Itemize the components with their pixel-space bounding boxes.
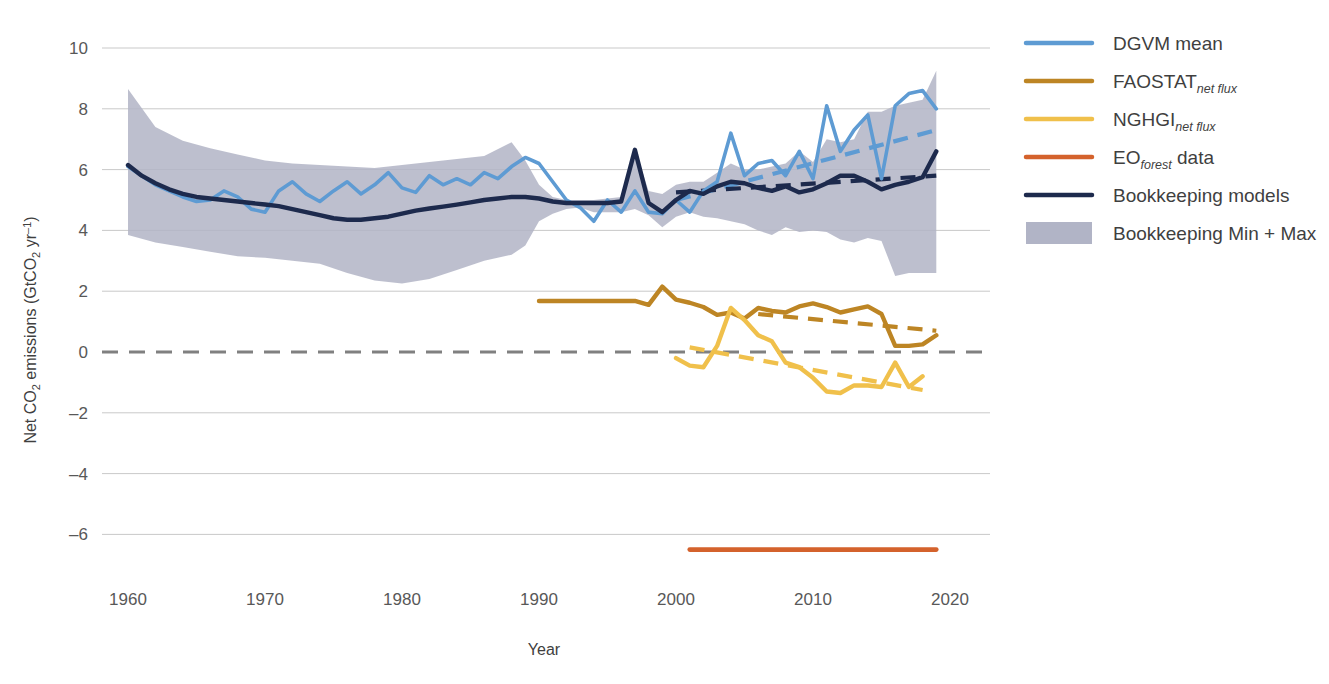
y-axis-tick-labels: 1086420–2–4–6 [69,39,88,544]
y-axis-title: Net CO2 emissions (GtCO2 yr–1) [21,216,42,443]
legend-label-main: Bookkeeping models [1113,185,1289,206]
y-tick-label: –4 [69,465,88,484]
x-axis-tick-labels: 1960197019801990200020102020 [109,590,969,609]
x-tick-label: 2010 [794,590,832,609]
legend-label-subscript: net flux [1175,120,1216,134]
y-tick-label: 10 [69,39,88,58]
x-tick-label: 2020 [931,590,969,609]
legend-label: DGVM mean [1113,33,1223,54]
legend-label: EOforest data [1113,147,1214,172]
x-tick-label: 1990 [520,590,558,609]
legend-item[interactable]: DGVM mean [1026,33,1223,54]
legend-label-main: EO [1113,147,1140,168]
x-axis-title: Year [528,641,561,658]
y-title-part: ) [22,216,39,221]
legend-swatch-patch [1026,222,1092,244]
chart-svg: 1960197019801990200020102020 1086420–2–4… [0,0,1329,684]
legend-label: NGHGInet flux [1113,109,1216,134]
y-tick-label: 4 [79,221,88,240]
axis-titles-group: Year Net CO2 emissions (GtCO2 yr–1) [21,216,561,658]
legend-item[interactable]: Bookkeeping models [1026,185,1289,206]
legend-label-subscript: net flux [1197,82,1238,96]
trend-line-faostat-trend [758,314,936,331]
y-tick-label: 2 [79,282,88,301]
y-tick-label: 6 [79,161,88,180]
y-title-part: –1 [21,222,33,234]
x-tick-label: 1980 [383,590,421,609]
x-tick-label: 2000 [657,590,695,609]
legend-label: Bookkeeping Min + Max [1113,223,1317,244]
legend-label-main: NGHGI [1113,109,1175,130]
legend-label: FAOSTATnet flux [1113,71,1238,96]
y-tick-label: 0 [79,343,88,362]
gridlines-group [102,48,990,534]
trend-line-nghgi-trend [690,347,923,390]
legend: DGVM meanFAOSTATnet fluxNGHGInet fluxEOf… [1026,33,1317,244]
y-tick-label: –2 [69,404,88,423]
x-tick-label: 1970 [246,590,284,609]
legend-item[interactable]: EOforest data [1026,147,1214,172]
legend-item[interactable]: Bookkeeping Min + Max [1026,222,1317,244]
y-title-part: emissions (GtCO [22,258,39,384]
y-title-part: yr [22,233,39,251]
legend-label-suffix: data [1172,147,1215,168]
legend-label-subscript: forest [1140,158,1172,172]
legend-item[interactable]: FAOSTATnet flux [1026,71,1238,96]
legend-label: Bookkeeping models [1113,185,1289,206]
legend-item[interactable]: NGHGInet flux [1026,109,1216,134]
x-tick-label: 1960 [109,590,147,609]
chart-figure: 1960197019801990200020102020 1086420–2–4… [0,0,1329,684]
legend-label-main: Bookkeeping Min + Max [1113,223,1317,244]
y-title-part: Net CO [22,390,39,443]
y-tick-label: 8 [79,100,88,119]
legend-label-main: FAOSTAT [1113,71,1197,92]
legend-label-main: DGVM mean [1113,33,1223,54]
y-tick-label: –6 [69,525,88,544]
